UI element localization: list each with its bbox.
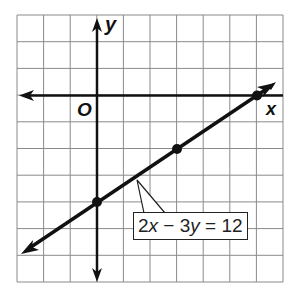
origin-label: O (77, 99, 92, 121)
point-0-neg4 (92, 197, 102, 207)
x-axis (19, 90, 283, 101)
y-axis (92, 18, 102, 282)
equation-label: 2x − 3y = 12 (133, 212, 248, 240)
grid-lines (17, 15, 283, 282)
x-axis-label: x (266, 99, 276, 120)
callout-pointer (137, 180, 165, 213)
point-3-neg2 (172, 144, 182, 154)
coordinate-plane (0, 0, 294, 300)
y-axis-label: y (105, 13, 116, 36)
point-6-0 (252, 91, 262, 101)
